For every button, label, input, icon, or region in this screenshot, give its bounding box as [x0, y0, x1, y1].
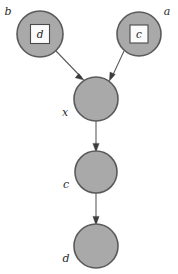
nodes-layer: d b c a x c d [4, 5, 170, 268]
node-c-circle[interactable] [75, 151, 117, 193]
edge-c-to-d [93, 193, 99, 225]
node-d-circle[interactable] [74, 224, 118, 268]
node-a[interactable]: c a [117, 5, 170, 56]
node-d-label: d [62, 252, 69, 265]
node-b-inner-label: d [37, 28, 44, 40]
node-x[interactable]: x [62, 77, 118, 121]
node-x-label: x [62, 106, 69, 119]
node-b[interactable]: d b [4, 5, 63, 57]
arrowhead-a-x [109, 72, 115, 81]
node-a-label: a [164, 5, 171, 18]
node-d[interactable]: d [62, 224, 118, 268]
graph-canvas: d b c a x c d [0, 0, 178, 274]
node-c-label: c [63, 178, 69, 191]
edge-x-to-c [93, 121, 99, 152]
node-b-label: b [4, 5, 11, 18]
arrowhead-b-x [75, 74, 84, 80]
edge-a-to-x [109, 51, 124, 81]
node-x-circle[interactable] [74, 77, 118, 121]
node-c[interactable]: c [63, 151, 117, 193]
node-a-inner-label: c [136, 28, 142, 40]
graph-diagram: d b c a x c d [0, 0, 178, 274]
edge-line-b-x [56, 51, 82, 78]
edge-b-to-x [56, 51, 84, 80]
